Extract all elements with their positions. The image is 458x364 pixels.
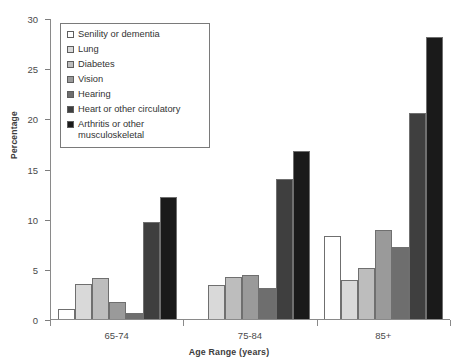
y-tick-mark xyxy=(45,270,50,271)
legend-swatch-icon xyxy=(67,121,74,128)
y-tick-label: 25 xyxy=(16,64,38,75)
legend-label: Diabetes xyxy=(78,59,115,70)
legend-label: Hearing xyxy=(78,89,111,100)
bar xyxy=(208,285,225,319)
bar xyxy=(92,278,109,319)
bar xyxy=(276,179,293,319)
bar xyxy=(75,284,92,319)
legend-item: Hearing xyxy=(67,89,203,100)
legend-label: Arthritis or other musculoskeletal xyxy=(78,119,144,141)
bar xyxy=(392,247,409,319)
x-group-label: 75-84 xyxy=(190,330,310,341)
y-tick-mark xyxy=(45,170,50,171)
bar xyxy=(242,275,259,319)
legend-item: Arthritis or other musculoskeletal xyxy=(67,119,203,141)
bar xyxy=(160,197,177,319)
bar xyxy=(259,288,276,319)
y-tick-mark xyxy=(45,119,50,120)
legend-item: Senility or dementia xyxy=(67,29,203,40)
y-tick-label: 15 xyxy=(16,164,38,175)
bar xyxy=(109,302,126,319)
bar xyxy=(409,113,426,319)
bar xyxy=(58,309,75,319)
bar xyxy=(225,277,242,319)
legend-label: Vision xyxy=(78,74,103,85)
x-group-label: 85+ xyxy=(323,330,443,341)
x-tick-mark xyxy=(450,320,451,326)
y-tick-mark xyxy=(45,320,50,321)
y-tick-label: 20 xyxy=(16,114,38,125)
bar-group xyxy=(317,19,450,319)
legend-label: Lung xyxy=(78,44,99,55)
x-axis-title: Age Range (years) xyxy=(0,347,458,357)
x-tick-mark xyxy=(317,320,318,326)
bar xyxy=(324,236,341,319)
bar xyxy=(375,230,392,319)
y-tick-mark xyxy=(45,19,50,20)
bar xyxy=(426,37,443,319)
bar xyxy=(341,280,358,319)
bar xyxy=(143,222,160,319)
legend-swatch-icon xyxy=(67,106,74,113)
bar xyxy=(293,151,310,319)
legend-item: Lung xyxy=(67,44,203,55)
bar-chart: Percentage 051015202530 65-7475-8485+ Ag… xyxy=(0,0,458,364)
y-tick-label: 0 xyxy=(16,315,38,326)
x-tick-mark xyxy=(183,320,184,326)
y-axis-tick-labels: 051015202530 xyxy=(16,0,38,364)
legend-item: Heart or other circulatory xyxy=(67,104,203,115)
legend-swatch-icon xyxy=(67,91,74,98)
legend-label: Heart or other circulatory xyxy=(78,104,180,115)
bar xyxy=(358,268,375,319)
y-tick-mark xyxy=(45,220,50,221)
x-group-label: 65-74 xyxy=(57,330,177,341)
legend-swatch-icon xyxy=(67,31,74,38)
legend-swatch-icon xyxy=(67,46,74,53)
legend-swatch-icon xyxy=(67,76,74,83)
legend: Senility or dementiaLungDiabetesVisionHe… xyxy=(60,23,210,148)
bar xyxy=(126,313,143,319)
x-tick-mark xyxy=(50,320,51,326)
y-tick-label: 5 xyxy=(16,264,38,275)
legend-item: Diabetes xyxy=(67,59,203,70)
y-tick-label: 10 xyxy=(16,214,38,225)
y-tick-label: 30 xyxy=(16,14,38,25)
legend-swatch-icon xyxy=(67,61,74,68)
y-tick-mark xyxy=(45,69,50,70)
legend-item: Vision xyxy=(67,74,203,85)
legend-label: Senility or dementia xyxy=(78,29,160,40)
